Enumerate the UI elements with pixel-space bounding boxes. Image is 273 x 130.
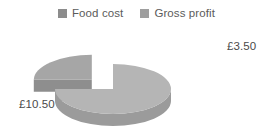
- pie-slice-gross-profit[interactable]: [34, 55, 92, 92]
- value-label-food-cost: £10.50: [19, 98, 55, 111]
- pie-chart-figure: Food cost Gross profit £10.50 £3.50: [0, 0, 273, 130]
- value-label-gross-profit: £3.50: [227, 40, 256, 53]
- pie-slice-gross-profit-top: [34, 55, 92, 80]
